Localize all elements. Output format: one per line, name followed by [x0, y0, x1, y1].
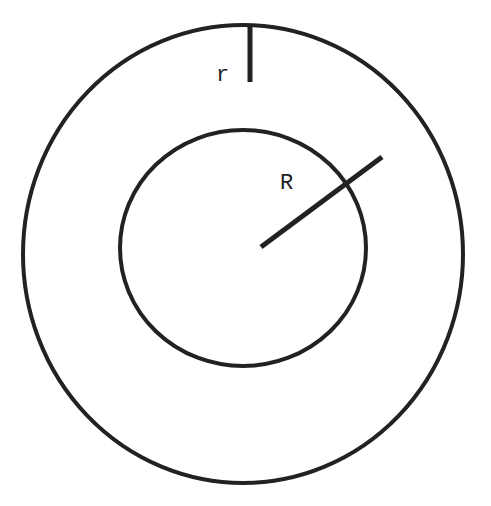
big-R-label: R [280, 171, 293, 196]
inner-circle [120, 130, 366, 366]
outer-circle [23, 25, 463, 483]
concentric-circles-diagram: r R [0, 0, 491, 506]
small-r-label: r [216, 63, 229, 88]
